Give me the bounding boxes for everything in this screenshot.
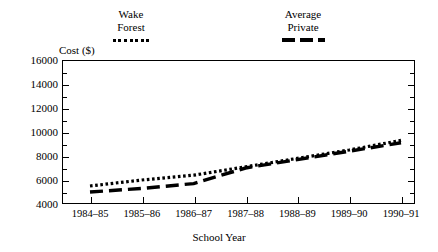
x-axis-tick-label: 1985–86 (123, 208, 160, 219)
legend-swatch-average-private (272, 35, 334, 45)
legend-entry-wake-forest: Wake Forest (103, 8, 159, 45)
y-axis-tick-label: 8000 (36, 150, 58, 162)
series-layer (62, 60, 415, 204)
legend-label-average-private-line2: Private (272, 21, 334, 34)
y-axis-tick-label: 4000 (36, 198, 58, 210)
x-axis-tick-labels: 1984–851985–861986–871987–881988–891989–… (62, 208, 415, 224)
x-axis-tick-label: 1984–85 (72, 208, 109, 219)
x-axis-tick-label: 1990–91 (383, 208, 420, 219)
y-axis-tick-label: 16000 (31, 54, 59, 66)
series-line-wake-forest (90, 140, 401, 186)
legend-entry-average-private: Average Private (272, 8, 334, 45)
y-axis-title: Cost ($) (59, 44, 95, 56)
y-axis-tick-label: 6000 (36, 174, 58, 186)
dashed-line-icon (282, 38, 325, 41)
y-axis-tick-label: 12000 (31, 102, 59, 114)
legend-label-wake-forest-line1: Wake (103, 8, 159, 21)
legend-swatch-wake-forest (103, 35, 159, 45)
y-axis-tick-labels: 40006000800010000120001400016000 (0, 60, 58, 204)
y-axis-tick-label: 10000 (31, 126, 59, 138)
legend-label-wake-forest-line2: Forest (103, 21, 159, 34)
x-axis-tick-label: 1987–88 (227, 208, 264, 219)
x-axis-title: School Year (0, 231, 438, 243)
dotted-line-icon (113, 39, 150, 42)
cost-line-chart: Wake Forest Average Private Cost ($) 400… (0, 0, 438, 252)
x-axis-tick-label: 1988–89 (279, 208, 316, 219)
legend-label-average-private-line1: Average (272, 8, 334, 21)
x-axis-tick-label: 1989–90 (331, 208, 368, 219)
x-axis-tick-label: 1986–87 (175, 208, 212, 219)
y-axis-tick-label: 14000 (31, 78, 59, 90)
series-line-average-private (90, 143, 401, 192)
